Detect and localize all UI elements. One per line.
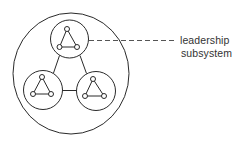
leadership-subsystem [51, 20, 89, 58]
member-node [49, 92, 54, 97]
member-node [75, 45, 80, 50]
subsystem-circle [51, 20, 89, 58]
bottom-right-subsystem [77, 72, 116, 111]
annotation-label-line2: subsystem [181, 47, 232, 59]
subsystem-circle [77, 72, 116, 111]
outer-system-circle [13, 13, 129, 134]
member-node [83, 94, 88, 99]
member-node [91, 77, 96, 82]
connection-top-bottom-left [54, 56, 60, 74]
connection-top-bottom-right [80, 56, 87, 74]
system-diagram [0, 0, 239, 143]
bottom-left-subsystem [24, 71, 63, 110]
member-node [31, 92, 36, 97]
member-node [57, 45, 62, 50]
member-node [65, 27, 70, 32]
member-node [40, 75, 45, 80]
member-node [102, 94, 107, 99]
annotation-label-line1: leadership [180, 34, 229, 46]
